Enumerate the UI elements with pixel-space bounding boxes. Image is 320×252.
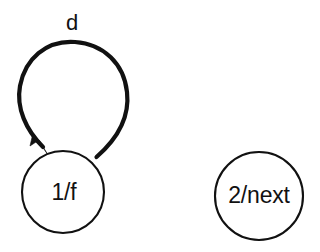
state-diagram: d 1/f 2/next <box>0 0 320 252</box>
self-loop-label: d <box>66 10 78 35</box>
state-1-label: 1/f <box>52 179 78 205</box>
state-node-2[interactable]: 2/next <box>215 152 303 240</box>
self-loop-edge[interactable] <box>19 42 127 157</box>
state-node-1[interactable]: 1/f <box>22 151 104 233</box>
state-2-label: 2/next <box>228 182 290 208</box>
diagram-canvas: d 1/f 2/next <box>0 0 320 252</box>
